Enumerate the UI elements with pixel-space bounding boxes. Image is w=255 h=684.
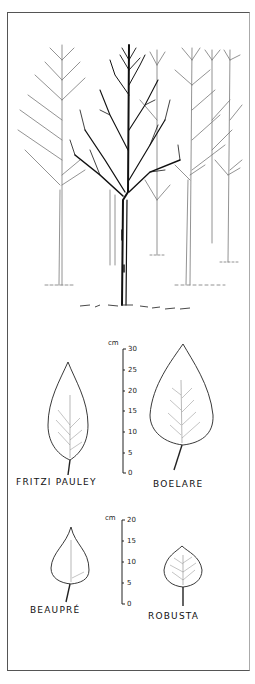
scale-tick-label: 15 — [128, 407, 137, 415]
large-scale-bar — [123, 349, 126, 473]
leaf-beaupre — [51, 527, 89, 602]
scale-unit-label: cm — [105, 514, 116, 522]
scale-tick-label: 15 — [127, 537, 136, 545]
small-scale-bar — [122, 520, 125, 604]
main-tree — [70, 45, 180, 305]
scale-tick-label: 5 — [127, 579, 131, 587]
leaf-boelare — [150, 344, 213, 470]
scale-tick-label: 20 — [127, 516, 136, 524]
ground-line — [80, 305, 190, 309]
scale-tick-label: 20 — [128, 387, 137, 395]
scale-tick-label: 25 — [128, 366, 137, 374]
scale-tick-label: 5 — [128, 449, 132, 457]
background-trees — [18, 45, 242, 285]
scale-tick-label: 10 — [128, 428, 137, 436]
scale-tick-label: 0 — [127, 600, 131, 608]
leaf-robusta — [164, 546, 202, 606]
scale-tick-label: 0 — [128, 469, 132, 477]
leaf-label-boelare: BOELARE — [153, 479, 204, 489]
leaf-label-robusta: ROBUSTA — [148, 611, 199, 621]
scale-unit-label: cm — [108, 339, 119, 347]
leaf-label-beaupre: BEAUPRÉ — [30, 605, 80, 615]
leaf-label-fritzi-pauley: FRITZI PAULEY — [16, 477, 97, 487]
scale-tick-label: 30 — [128, 345, 137, 353]
leaf-fritzi-pauley — [48, 362, 88, 475]
scale-tick-label: 10 — [127, 558, 136, 566]
